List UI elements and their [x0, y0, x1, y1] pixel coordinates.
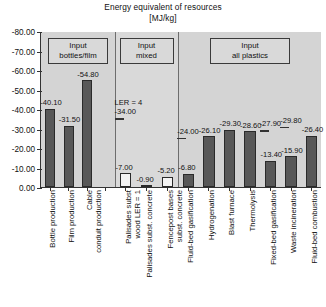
- bar-value-label: -26.10: [199, 127, 221, 135]
- annotation-dash-marker: [260, 130, 269, 131]
- x-category-label-line: subst. concrete: [175, 190, 184, 249]
- x-category-label-line: wood LER = 1: [133, 190, 142, 244]
- bar-value-label: -28.60: [240, 122, 262, 130]
- annotation-line1: LER = 4: [115, 98, 143, 107]
- x-category-label-line: Hydrogenation: [208, 190, 217, 240]
- x-category-label-line: Bottle production: [49, 190, 58, 248]
- bar-value-label: -13.40: [261, 151, 283, 159]
- chart-title: Energy equivalent of resources: [0, 2, 326, 13]
- group-box-line1: Input: [53, 41, 103, 51]
- bar-value-label: -40.10: [40, 99, 62, 107]
- group-box: Inputbottles/film: [48, 38, 108, 64]
- y-tick-label: 0.00: [19, 184, 35, 193]
- chart-figure: Energy equivalent of resources [MJ/kg] 0…: [0, 0, 326, 307]
- bar: [265, 161, 277, 187]
- x-category-label-line: Thermolysis: [249, 190, 258, 231]
- bar: [45, 109, 55, 187]
- y-tick-mark: [37, 110, 42, 111]
- bar-annotation: LER = 4-34.00: [115, 98, 143, 119]
- bar: [306, 136, 318, 187]
- annotation-line2: -34.00: [115, 107, 143, 116]
- bar: [162, 177, 174, 187]
- group-box: Inputall plastics: [210, 38, 290, 64]
- y-tick-label: -30.00: [12, 125, 35, 134]
- y-tick-mark: [37, 169, 42, 170]
- bar: [64, 126, 74, 187]
- bar: [203, 136, 215, 187]
- bar-annotation: -29.80: [280, 116, 302, 128]
- x-category-label-line: Fluid-bed gasification: [187, 190, 196, 263]
- group-box-line2: mixed: [125, 51, 169, 61]
- y-axis-labels: 0.00-10.00-20.00-30.00-40.00-50.00-60.00…: [0, 0, 38, 307]
- group-box-line2: all plastics: [215, 51, 285, 61]
- bar: [285, 156, 297, 187]
- bar-value-label: -54.80: [77, 71, 99, 79]
- x-category-label-line: Blast furnace: [228, 190, 237, 235]
- bar-value-label: -15.90: [281, 147, 303, 155]
- bar-value-label: -5.20: [158, 167, 175, 175]
- annotation-dash-marker: [177, 138, 186, 139]
- y-tick-mark: [37, 32, 42, 33]
- y-tick-mark: [37, 130, 42, 131]
- bar: [183, 174, 195, 187]
- x-category-label-line: conduit production: [95, 190, 104, 253]
- x-category-label-line: Palisades subst: [125, 190, 134, 244]
- bar-value-label: -7.00: [116, 164, 133, 172]
- annotation-line1: -29.80: [280, 116, 302, 125]
- x-category-label-line: Fixed-bed gasification: [270, 190, 279, 265]
- y-tick-label: -40.00: [12, 106, 35, 115]
- bar: [224, 130, 236, 187]
- bar: [120, 173, 132, 187]
- group-box-line2: bottles/film: [53, 51, 103, 61]
- bar-value-label: -31.50: [59, 116, 81, 124]
- y-tick-mark: [37, 71, 42, 72]
- y-tick-mark: [37, 188, 42, 189]
- bar: [82, 80, 92, 187]
- y-tick-mark: [37, 52, 42, 53]
- chart-subtitle: [MJ/kg]: [0, 13, 326, 24]
- y-tick-mark: [37, 91, 42, 92]
- y-tick-label: -70.00: [12, 47, 35, 56]
- group-box-line1: Input: [215, 41, 285, 51]
- bar-value-label: -26.40: [302, 126, 324, 134]
- plot-area: -40.10-31.50-54.80-7.00-0.90-5.20-6.80-2…: [40, 32, 321, 188]
- bar-annotation: -27.90: [260, 119, 282, 131]
- y-tick-label: -80.00: [12, 28, 35, 37]
- y-tick-label: -20.00: [12, 145, 35, 154]
- x-category-label-line: Fencepost bases: [167, 190, 176, 249]
- y-tick-label: -60.00: [12, 67, 35, 76]
- x-axis-category-labels: Bottle productionFilm productionCablecon…: [40, 190, 321, 307]
- bar: [141, 185, 153, 187]
- bar-value-label: -6.80: [178, 164, 195, 172]
- y-tick-label: -50.00: [12, 86, 35, 95]
- bar-value-label: -0.90: [137, 176, 154, 184]
- x-category-label-line: Waste incineration: [290, 190, 299, 253]
- annotation-dash-marker: [280, 127, 289, 128]
- annotation-dash-marker: [115, 118, 124, 119]
- group-box-line1: Input: [125, 41, 169, 51]
- y-tick-mark: [37, 149, 42, 150]
- group-box: Inputmixed: [120, 38, 174, 64]
- x-category-label-line: Fluid-bed combustion: [311, 190, 320, 264]
- annotation-line1: -24.00: [177, 127, 199, 136]
- y-tick-label: -10.00: [12, 164, 35, 173]
- bar-value-label: -29.30: [219, 120, 241, 128]
- x-category-label-line: Palisades subst. concrete: [146, 190, 155, 278]
- x-category-label-line: Film production: [68, 190, 77, 243]
- annotation-line1: -27.90: [260, 119, 282, 128]
- chart-title-block: Energy equivalent of resources [MJ/kg]: [0, 2, 326, 24]
- bar: [244, 131, 256, 187]
- bar-annotation: -24.00: [177, 127, 199, 139]
